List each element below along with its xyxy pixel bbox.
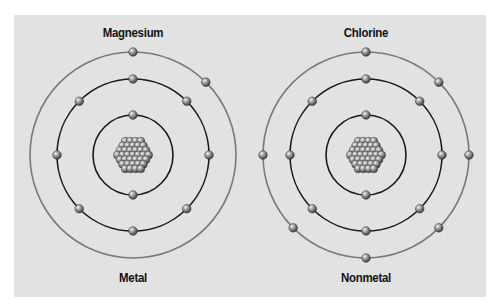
electron-icon <box>75 204 84 213</box>
chlorine-atom <box>259 48 474 263</box>
electron-icon <box>362 254 371 263</box>
electron-icon <box>289 224 298 233</box>
electron-icon <box>362 227 371 236</box>
electron-icon <box>129 111 138 120</box>
electron-icon <box>75 97 84 106</box>
electron-icon <box>308 97 317 106</box>
electron-icon <box>182 97 191 106</box>
chlorine-nucleus <box>346 137 385 173</box>
electron-icon <box>362 75 371 84</box>
electron-icon <box>53 151 62 160</box>
electron-icon <box>362 111 371 120</box>
electron-icon <box>129 75 138 84</box>
electron-icon <box>465 151 474 160</box>
magnesium-title: Magnesium <box>63 25 204 40</box>
electron-icon <box>438 151 447 160</box>
electron-icon <box>415 204 424 213</box>
nonmetal-label: Nonmetal <box>296 270 437 285</box>
electron-icon <box>435 224 444 233</box>
electron-icon <box>205 151 214 160</box>
electron-icon <box>202 78 211 87</box>
electron-icon <box>129 227 138 236</box>
electron-icon <box>435 78 444 87</box>
electron-icon <box>362 191 371 200</box>
electron-icon <box>129 191 138 200</box>
electron-icon <box>362 48 371 57</box>
electron-icon <box>129 48 138 57</box>
electron-icon <box>308 204 317 213</box>
electron-icon <box>286 151 295 160</box>
electron-icon <box>415 97 424 106</box>
electron-icon <box>259 151 268 160</box>
magnesium-atom <box>30 48 236 258</box>
chlorine-title: Chlorine <box>296 25 437 40</box>
magnesium-nucleus <box>113 137 152 173</box>
metal-label: Metal <box>63 270 204 285</box>
atom-diagrams <box>0 0 496 304</box>
electron-icon <box>182 204 191 213</box>
